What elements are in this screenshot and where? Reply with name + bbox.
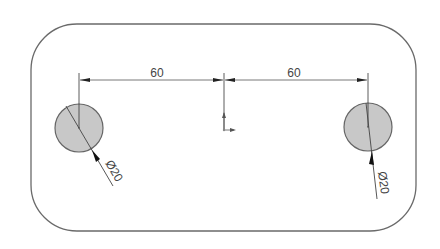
cad-sketch-canvas[interactable]: 60 60 Ø20 Ø20: [0, 0, 440, 249]
dimension-right-60[interactable]: 60: [225, 66, 367, 80]
dimension-left-60[interactable]: 60: [80, 66, 223, 80]
dimension-text-left: 60: [150, 66, 164, 80]
dimension-text-right: 60: [287, 66, 301, 80]
diameter-text-right: Ø20: [375, 170, 392, 195]
diameter-text-left: Ø20: [102, 158, 126, 185]
origin-icon: [222, 112, 236, 132]
